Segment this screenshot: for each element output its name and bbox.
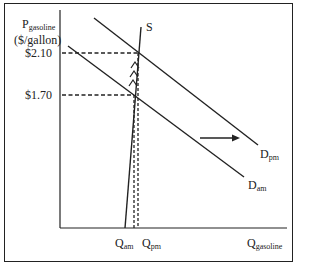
- q-am-label-sub: am: [124, 242, 134, 251]
- demand-am-label-sub: am: [257, 184, 267, 193]
- demand-pm-label-sub: pm: [269, 153, 279, 162]
- price-low-label: $1.70: [25, 88, 52, 103]
- q-pm-label-main: Q: [142, 236, 151, 250]
- demand-pm-label: Dpm: [260, 147, 279, 162]
- q-pm-label-sub: pm: [151, 242, 161, 251]
- supply-label: S: [146, 20, 153, 35]
- q-pm-label: Qpm: [142, 236, 161, 251]
- supply-curve: [125, 27, 141, 228]
- y-axis-label: Pgasoline: [22, 17, 55, 32]
- q-am-label: Qam: [115, 236, 133, 251]
- demand-am-label-main: D: [248, 178, 257, 192]
- x-axis-label-sub: gasoline: [256, 242, 283, 251]
- demand-am-label: Dam: [248, 178, 266, 193]
- y-axis-label-main: P: [22, 17, 29, 31]
- shift-right-arrow-icon: [200, 135, 240, 142]
- y-axis-label-sub: gasoline: [29, 23, 56, 32]
- x-axis-label: Qgasoline: [247, 236, 282, 251]
- q-am-label-main: Q: [115, 236, 124, 250]
- demand-pm-label-main: D: [260, 147, 269, 161]
- x-axis-label-main: Q: [247, 236, 256, 250]
- price-high-label: $2.10: [25, 46, 52, 61]
